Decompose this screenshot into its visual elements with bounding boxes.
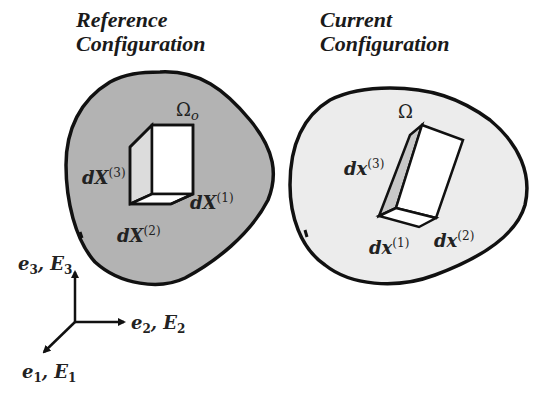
vector-base: dx [434,230,457,251]
basis-E-index: 2 [177,322,185,336]
basis-E: E [54,361,68,382]
separator: , [151,312,164,333]
vector-index: (2) [457,229,474,243]
axis-1-label: e1, E1 [22,362,76,388]
basis-e: e [131,312,142,333]
reference-boundary-tick [80,232,82,238]
vector-base: dx [369,237,392,258]
reference-vector-dX1: dX(1) [190,188,234,213]
configuration-diagram [0,0,543,397]
basis-e: e [22,361,33,382]
vector-index: (1) [217,191,234,205]
basis-E-index: 3 [64,263,72,277]
coordinate-axes [44,272,124,352]
current-vector-dx1: dx(1) [369,233,409,258]
basis-e-index: 3 [29,263,37,277]
axis-2-label: e2, E2 [131,313,185,339]
current-vector-dx3: dx(3) [344,154,384,179]
vector-index: (3) [367,157,384,171]
current-domain-label: Ω [398,102,413,122]
reference-volume-element [130,125,193,204]
reference-vector-dX2: dX(2) [117,221,161,246]
basis-e-index: 1 [33,371,41,385]
basis-E-index: 1 [68,371,76,385]
omega-symbol: Ω [398,101,413,122]
basis-E: E [50,253,64,274]
basis-e: e [18,253,29,274]
vector-base: dx [344,158,367,179]
reference-vector-dX3: dX(3) [82,163,126,188]
basis-e-index: 2 [142,322,150,336]
vector-index: (2) [144,224,161,238]
vector-base: dX [190,192,217,213]
vector-index: (1) [392,236,409,250]
reference-domain-label: Ωo [176,100,199,126]
omega-subscript: o [191,108,199,123]
omega-symbol: Ω [176,99,191,120]
separator: , [38,253,51,274]
separator: , [42,361,55,382]
basis-E: E [163,312,177,333]
vector-base: dX [82,167,109,188]
current-vector-dx2: dx(2) [434,226,474,251]
axis-3-label: e3, E3 [18,254,72,280]
axis-1-arrow [44,322,75,352]
vector-base: dX [117,225,144,246]
current-boundary-tick [305,230,307,237]
vector-index: (3) [109,166,126,180]
